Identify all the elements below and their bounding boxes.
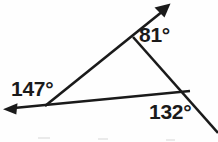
left-ray-arrowhead [3,103,18,114]
page-artifact-smudge-1 [38,137,50,139]
page-artifact-smudge-3 [166,139,175,141]
angle-label-top: 81° [139,24,170,45]
page-artifact-smudge-2 [98,138,108,140]
geometry-figure: 81° 147° 132° [0,0,218,142]
angle-label-right: 132° [149,101,191,122]
angle-label-left: 147° [11,78,53,99]
